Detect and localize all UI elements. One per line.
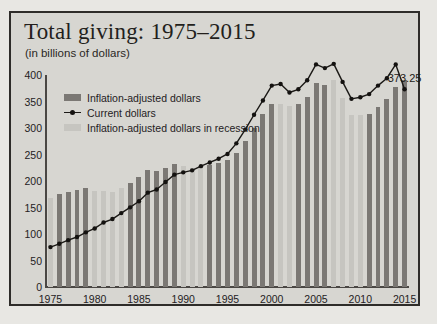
line-marker xyxy=(101,220,105,224)
line-marker xyxy=(287,90,291,94)
y-axis-tick-label: 100 xyxy=(24,228,42,240)
x-axis-tick-label: 2015 xyxy=(393,293,416,305)
line-marker xyxy=(278,82,282,86)
line-marker xyxy=(270,83,274,87)
chart-frame: Total giving: 1975–2015 (in billions of … xyxy=(9,11,420,306)
legend-label: Inflation-adjusted dollars in recession xyxy=(87,122,260,134)
y-axis-tick-label: 300 xyxy=(24,122,42,134)
line-marker xyxy=(305,78,309,82)
legend-swatch-bar-icon xyxy=(64,94,81,101)
line-marker xyxy=(216,157,220,161)
line-marker xyxy=(296,87,300,91)
y-axis-tick-label: 200 xyxy=(24,175,42,187)
x-axis-tick-label: 2000 xyxy=(260,293,283,305)
line-marker xyxy=(314,62,318,66)
legend-swatch-line-marker-icon xyxy=(64,109,81,116)
legend-item-current-dollars: Current dollars xyxy=(64,106,260,119)
line-marker xyxy=(154,187,158,191)
line-marker xyxy=(261,98,265,102)
line-marker xyxy=(332,62,336,66)
line-marker xyxy=(376,83,380,87)
line-marker xyxy=(137,199,141,203)
peak-value-label: 373.25 xyxy=(388,72,422,84)
x-axis-tick-label: 1990 xyxy=(172,293,195,305)
line-marker xyxy=(349,97,353,101)
y-axis-tick-label: 150 xyxy=(24,202,42,214)
y-axis-tick-label: 0 xyxy=(36,281,42,293)
line-marker xyxy=(146,190,150,194)
line-marker xyxy=(358,95,362,99)
line-marker xyxy=(323,66,327,70)
line-marker xyxy=(75,235,79,239)
x-axis-tick-label: 2010 xyxy=(349,293,372,305)
line-marker xyxy=(84,230,88,234)
x-axis-tick-label: 1980 xyxy=(83,293,106,305)
line-marker xyxy=(163,180,167,184)
chart-subtitle: (in billions of dollars) xyxy=(25,47,130,59)
chart-legend: Inflation-adjusted dollars Current dolla… xyxy=(64,91,260,136)
line-marker xyxy=(225,152,229,156)
y-axis-tick-label: 50 xyxy=(30,255,42,267)
line-marker xyxy=(66,238,70,242)
y-axis-tick-label: 250 xyxy=(24,149,42,161)
line-marker xyxy=(119,211,123,215)
line-marker xyxy=(234,141,238,145)
x-axis-labels: 197519801985199019952000200520102015 xyxy=(46,293,409,309)
x-axis-tick-label: 2005 xyxy=(304,293,327,305)
current-dollars-markers xyxy=(48,62,407,250)
x-axis-tick-label: 1985 xyxy=(127,293,150,305)
line-marker xyxy=(394,62,398,66)
x-axis-tick-label: 1995 xyxy=(216,293,239,305)
line-marker xyxy=(181,170,185,174)
line-marker xyxy=(402,87,406,91)
y-axis-tick-label: 350 xyxy=(24,96,42,108)
line-marker xyxy=(367,92,371,96)
line-marker xyxy=(48,245,52,249)
y-axis-tick-label: 400 xyxy=(24,69,42,81)
legend-item-recession: Inflation-adjusted dollars in recession xyxy=(64,121,260,134)
legend-swatch-recession-bar-icon xyxy=(64,124,81,131)
legend-label: Inflation-adjusted dollars xyxy=(87,92,201,104)
line-marker xyxy=(128,205,132,209)
line-marker xyxy=(57,242,61,246)
legend-label: Current dollars xyxy=(87,107,156,119)
line-marker xyxy=(340,80,344,84)
y-axis-labels: 050100150200250300350400 xyxy=(11,75,42,287)
chart-title: Total giving: 1975–2015 xyxy=(24,19,256,45)
line-marker xyxy=(172,172,176,176)
line-marker xyxy=(93,226,97,230)
legend-item-inflation-adjusted: Inflation-adjusted dollars xyxy=(64,91,260,104)
line-marker xyxy=(110,217,114,221)
line-marker xyxy=(190,168,194,172)
line-marker xyxy=(208,160,212,164)
x-axis-tick-label: 1975 xyxy=(39,293,62,305)
line-marker xyxy=(199,164,203,168)
